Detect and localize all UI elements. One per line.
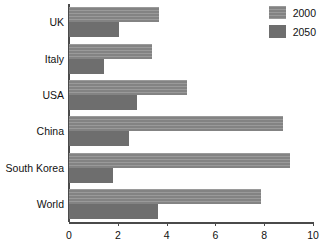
x-tick-label-8: 8 <box>261 229 267 241</box>
bar-group <box>69 153 313 183</box>
x-tick-mark <box>313 222 314 226</box>
x-tick-label-6: 6 <box>212 229 218 241</box>
category-label-south-korea: South Korea <box>0 162 64 174</box>
chart-legend: 2000 2050 <box>269 6 316 38</box>
bar-uk-2000 <box>69 7 159 22</box>
bar-south-korea-2000 <box>69 153 290 168</box>
x-tick-mark <box>118 222 119 226</box>
category-axis-labels: UKItalyUSAChinaSouth KoreaWorld <box>0 4 64 222</box>
category-label-uk: UK <box>0 16 64 28</box>
x-tick-label-4: 4 <box>164 229 170 241</box>
bar-group <box>69 80 313 110</box>
category-label-china: China <box>0 125 64 137</box>
legend-swatch-2000 <box>269 6 286 19</box>
bar-italy-2050 <box>69 59 104 74</box>
x-tick-mark <box>215 222 216 226</box>
legend-item-2000: 2000 <box>269 6 316 19</box>
bar-world-2050 <box>69 204 158 219</box>
legend-label-2050: 2050 <box>293 26 316 38</box>
bar-uk-2050 <box>69 22 119 37</box>
x-tick-mark <box>264 222 265 226</box>
bar-world-2000 <box>69 189 261 204</box>
category-label-world: World <box>0 198 64 210</box>
category-label-italy: Italy <box>0 53 64 65</box>
bar-usa-2050 <box>69 95 137 110</box>
bar-south-korea-2050 <box>69 168 113 183</box>
legend-item-2050: 2050 <box>269 25 316 38</box>
legend-label-2000: 2000 <box>293 7 316 19</box>
bar-china-2050 <box>69 131 129 146</box>
x-axis-line <box>69 222 313 224</box>
bar-group <box>69 189 313 219</box>
bar-usa-2000 <box>69 80 187 95</box>
bar-chart: UKItalyUSAChinaSouth KoreaWorld 0246810 … <box>0 0 322 248</box>
x-tick-label-0: 0 <box>66 229 72 241</box>
legend-swatch-2050 <box>269 25 286 38</box>
category-label-usa: USA <box>0 89 64 101</box>
bar-china-2000 <box>69 116 283 131</box>
x-tick-label-2: 2 <box>115 229 121 241</box>
bar-italy-2000 <box>69 44 152 59</box>
x-tick-label-10: 10 <box>307 229 319 241</box>
x-tick-mark <box>167 222 168 226</box>
bar-group <box>69 116 313 146</box>
bar-group <box>69 44 313 74</box>
